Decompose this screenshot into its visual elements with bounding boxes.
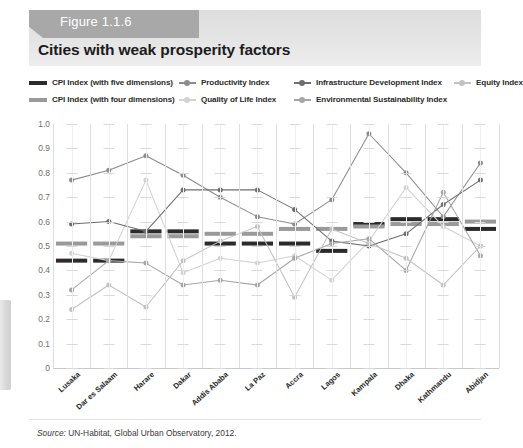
x-tick-label: Dakar [171, 370, 193, 391]
legend-label: Environmental Sustainability Index [316, 95, 447, 104]
grid-ticklet [363, 246, 374, 247]
grid-ticklet [103, 173, 114, 174]
grid-ticklet [326, 124, 337, 125]
grid-ticklet [438, 197, 449, 198]
grid-ticklet [66, 197, 77, 198]
grid-ticklet [103, 222, 114, 223]
grid-line-vertical [313, 124, 314, 368]
grid-ticklet [66, 173, 77, 174]
grid-ticklet [438, 246, 449, 247]
grid-ticklet [326, 222, 337, 223]
grid-ticklet [140, 246, 151, 247]
grid-ticklet [140, 270, 151, 271]
grid-ticklet [252, 368, 263, 369]
grid-ticklet [103, 319, 114, 320]
grid-line-vertical [165, 124, 166, 368]
grid-ticklet [215, 295, 226, 296]
grid-ticklet [438, 124, 449, 125]
grid-ticklet [215, 148, 226, 149]
grid-line-vertical [499, 124, 500, 368]
grid-ticklet [401, 319, 412, 320]
grid-ticklet [178, 148, 189, 149]
grid-ticklet [438, 344, 449, 345]
grid-ticklet [215, 246, 226, 247]
grid-ticklet [401, 344, 412, 345]
x-tick-label: Lagos [319, 370, 342, 392]
grid-ticklet [289, 270, 300, 271]
grid-ticklet [363, 344, 374, 345]
grid-ticklet [438, 173, 449, 174]
page-edge-tab [0, 300, 11, 390]
grid-ticklet [103, 344, 114, 345]
grid-ticklet [178, 270, 189, 271]
footer-divider [29, 419, 481, 420]
legend-line-marker-icon [179, 95, 196, 104]
grid-ticklet [252, 246, 263, 247]
grid-ticklet [289, 173, 300, 174]
grid-ticklet [215, 344, 226, 345]
grid-ticklet [475, 246, 486, 247]
legend-label: Quality of Life Index [201, 95, 276, 104]
grid-ticklet [252, 124, 263, 125]
grid-ticklet [475, 173, 486, 174]
grid-ticklet [289, 319, 300, 320]
grid-ticklet [475, 319, 486, 320]
x-tick-label: La Paz [244, 370, 268, 393]
y-tick-label: 0.9 [38, 143, 50, 153]
legend-bar-swatch-icon [29, 98, 47, 102]
legend-item: CPI Index (with five dimensions) [29, 78, 173, 87]
y-tick-label: 0.3 [38, 290, 50, 300]
grid-ticklet [438, 295, 449, 296]
grid-ticklet [178, 124, 189, 125]
legend-label: Productivity Index [201, 78, 269, 87]
grid-ticklet [178, 344, 189, 345]
grid-ticklet [401, 270, 412, 271]
x-tick-label: Dhaka [393, 370, 416, 392]
grid-ticklet [66, 148, 77, 149]
plot-area [53, 124, 499, 368]
x-tick-label: Addis Ababa [190, 370, 230, 408]
x-tick-label: Harare [132, 370, 156, 393]
grid-line-vertical [127, 124, 128, 368]
grid-ticklet [475, 197, 486, 198]
grid-ticklet [66, 270, 77, 271]
y-tick-label: 0.5 [38, 241, 50, 251]
grid-ticklet [363, 197, 374, 198]
legend-label: CPI Index (with five dimensions) [52, 78, 173, 87]
grid-ticklet [438, 319, 449, 320]
grid-ticklet [289, 124, 300, 125]
grid-line-vertical [350, 124, 351, 368]
x-tick-label: Kampala [349, 370, 379, 398]
grid-ticklet [326, 197, 337, 198]
grid-ticklet [252, 270, 263, 271]
grid-ticklet [475, 344, 486, 345]
grid-ticklet [252, 319, 263, 320]
grid-line-vertical [425, 124, 426, 368]
grid-ticklet [475, 148, 486, 149]
grid-ticklet [475, 222, 486, 223]
legend-bar-swatch-icon [29, 81, 47, 85]
legend-line-marker-icon [454, 78, 471, 87]
grid-ticklet [401, 173, 412, 174]
grid-ticklet [103, 124, 114, 125]
grid-ticklet [178, 295, 189, 296]
grid-ticklet [252, 173, 263, 174]
grid-ticklet [215, 124, 226, 125]
grid-ticklet [326, 246, 337, 247]
grid-line-vertical [388, 124, 389, 368]
legend-item: CPI Index (with four dimensions) [29, 95, 175, 104]
grid-line-vertical [202, 124, 203, 368]
figure-title: Cities with weak prosperity factors [38, 41, 290, 59]
y-tick-label: 0.6 [38, 217, 50, 227]
grid-ticklet [326, 148, 337, 149]
grid-ticklet [401, 295, 412, 296]
grid-ticklet [178, 246, 189, 247]
grid-ticklet [215, 368, 226, 369]
grid-ticklet [178, 222, 189, 223]
legend-label: Infrastructure Development Index [316, 78, 442, 87]
grid-ticklet [103, 270, 114, 271]
x-axis-line [53, 368, 499, 369]
x-tick-label: Lusaka [56, 370, 81, 394]
legend-label: Equity Index [476, 78, 523, 87]
